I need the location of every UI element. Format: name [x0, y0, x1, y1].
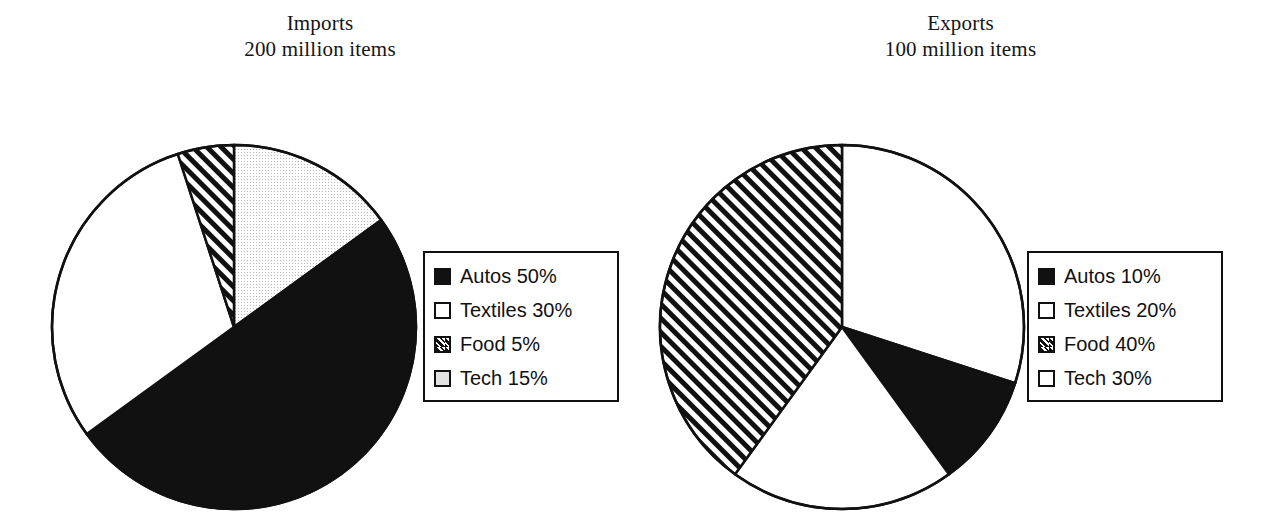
- exports-title-line1: Exports: [640, 10, 1281, 36]
- panel-imports: Imports 200 million items: [0, 0, 640, 524]
- legend-label-autos: Autos 10%: [1064, 265, 1161, 287]
- imports-title-subtitle: 200 million items: [0, 36, 640, 62]
- legend-label-food: Food 40%: [1064, 333, 1155, 355]
- legend-label-tech: Tech 15%: [460, 367, 548, 389]
- legend-swatch-tech-icon: [1038, 370, 1055, 387]
- imports-legend: Autos 50% Textiles 30% Food 5% Tech 15%: [423, 251, 619, 402]
- legend-label-autos: Autos 50%: [460, 265, 557, 287]
- legend-item[interactable]: Textiles 30%: [434, 293, 605, 327]
- pie-chart-figure: Imports 200 million items: [0, 0, 1281, 524]
- legend-label-food: Food 5%: [460, 333, 540, 355]
- legend-label-textiles: Textiles 30%: [460, 299, 572, 321]
- legend-swatch-autos-icon: [1038, 268, 1055, 285]
- panel-exports: Exports 100 million items: [640, 0, 1281, 524]
- legend-label-textiles: Textiles 20%: [1064, 299, 1176, 321]
- legend-label-tech: Tech 30%: [1064, 367, 1152, 389]
- imports-pie-svg: [52, 137, 416, 517]
- legend-swatch-autos-icon: [434, 268, 451, 285]
- legend-swatch-food-icon: [1038, 336, 1055, 353]
- imports-pie: [52, 137, 416, 517]
- legend-item[interactable]: Textiles 20%: [1038, 293, 1209, 327]
- exports-legend: Autos 10% Textiles 20% Food 40% Tech 30%: [1027, 251, 1223, 402]
- imports-title: Imports 200 million items: [0, 10, 640, 62]
- imports-title-line1: Imports: [0, 10, 640, 36]
- legend-swatch-textiles-icon: [434, 302, 451, 319]
- legend-swatch-food-icon: [434, 336, 451, 353]
- legend-item[interactable]: Autos 50%: [434, 259, 605, 293]
- legend-item[interactable]: Food 5%: [434, 327, 605, 361]
- legend-item[interactable]: Tech 15%: [434, 361, 605, 395]
- exports-title-subtitle: 100 million items: [640, 36, 1281, 62]
- exports-pie-svg: [660, 137, 1024, 517]
- legend-item[interactable]: Autos 10%: [1038, 259, 1209, 293]
- legend-swatch-textiles-icon: [1038, 302, 1055, 319]
- legend-item[interactable]: Tech 30%: [1038, 361, 1209, 395]
- legend-swatch-tech-icon: [434, 370, 451, 387]
- exports-title: Exports 100 million items: [640, 10, 1281, 62]
- exports-pie: [660, 137, 1024, 517]
- legend-item[interactable]: Food 40%: [1038, 327, 1209, 361]
